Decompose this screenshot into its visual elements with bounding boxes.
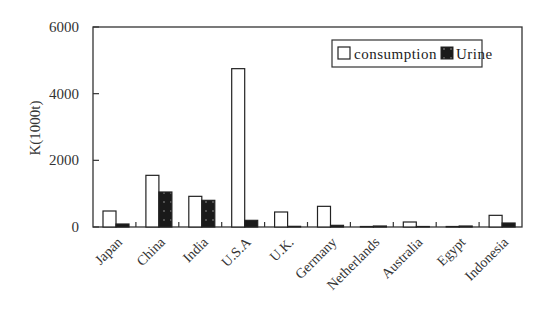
bar-consumption-china	[146, 175, 159, 227]
x-tick-label: Japan	[92, 235, 125, 268]
legend-label-consumption: consumption	[354, 46, 437, 62]
legend-swatch-urine	[441, 47, 453, 59]
x-tick-label: Indonesia	[462, 234, 512, 284]
x-axis-labels: JapanChinaIndiaU.S.AU.K.GermanyNetherlan…	[92, 234, 512, 293]
bar-urine-australia	[416, 227, 429, 228]
bar-consumption-japan	[103, 211, 116, 227]
y-axis-title: K(1000t)	[27, 101, 44, 156]
legend: consumptionUrine	[332, 40, 493, 67]
bar-urine-japan	[116, 224, 129, 227]
bar-urine-uk	[288, 226, 301, 227]
bar-consumption-indonesia	[489, 215, 502, 227]
x-tick-label: India	[180, 234, 212, 266]
bar-chart: 0200040006000 JapanChinaIndiaU.S.AU.K.Ge…	[0, 0, 538, 328]
bar-urine-china	[159, 192, 172, 227]
x-tick-label: Egypt	[434, 234, 468, 268]
y-tick-label: 6000	[49, 19, 79, 35]
bar-urine-egypt	[459, 226, 472, 227]
bar-urine-indonesia	[502, 223, 515, 227]
y-tick-label: 4000	[49, 86, 79, 102]
y-axis: 0200040006000	[49, 19, 99, 235]
bar-urine-netherlands	[373, 226, 386, 227]
bar-consumption-uk	[275, 212, 288, 227]
bar-consumption-egypt	[446, 227, 459, 228]
y-tick-label: 2000	[49, 152, 79, 168]
x-tick-label: Australia	[379, 234, 426, 281]
x-tick-label: U.K.	[267, 235, 297, 265]
y-tick-label: 0	[72, 219, 80, 235]
bars	[103, 69, 515, 227]
bar-urine-germany	[331, 225, 344, 227]
bar-consumption-australia	[403, 222, 416, 227]
bar-urine-india	[202, 200, 215, 227]
legend-swatch-consumption	[338, 47, 350, 59]
x-tick-label: U.S.A	[218, 234, 254, 270]
legend-label-urine: Urine	[456, 46, 493, 62]
bar-consumption-india	[189, 196, 202, 227]
bar-consumption-netherlands	[360, 227, 373, 228]
bar-consumption-germany	[318, 206, 331, 227]
bar-urine-usa	[245, 220, 258, 227]
bar-consumption-usa	[232, 69, 245, 227]
x-tick-label: China	[134, 234, 169, 269]
